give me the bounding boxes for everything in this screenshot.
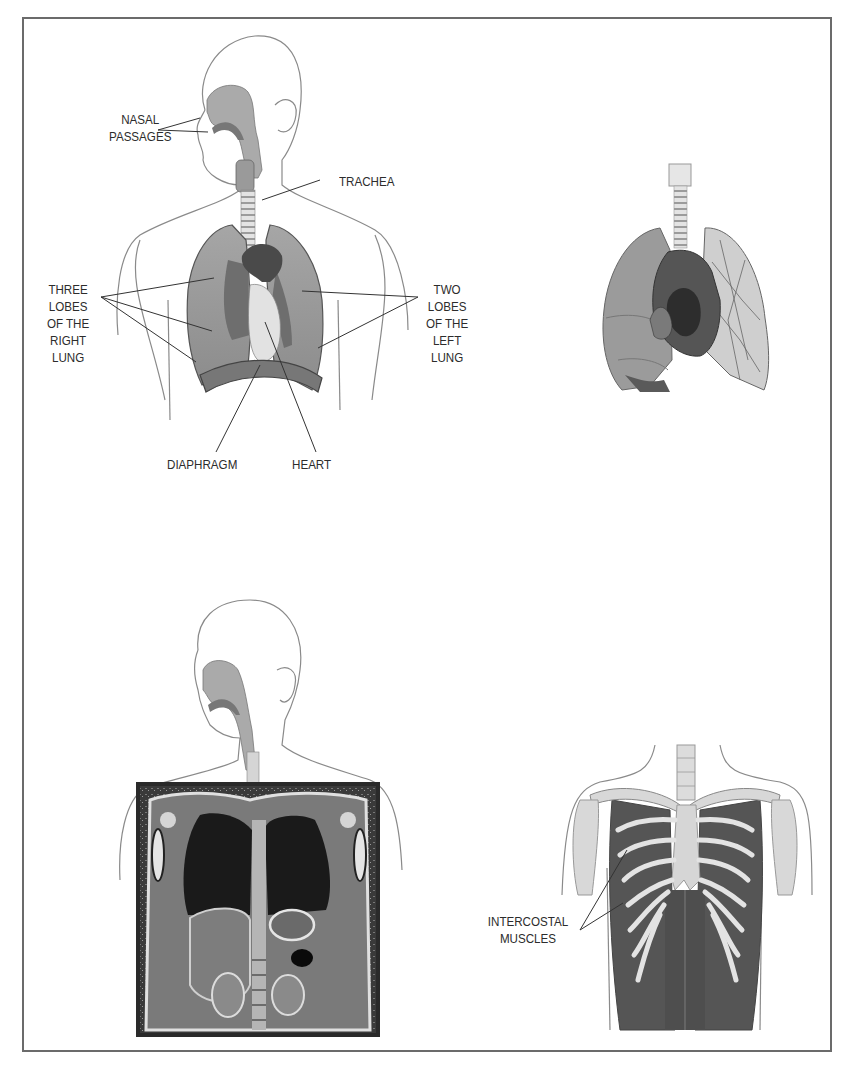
label-nasal-passages: NASAL PASSAGES	[109, 111, 171, 145]
label-trachea: TRACHEA	[339, 173, 394, 190]
panel-intercostal-muscles	[562, 745, 812, 1030]
label-line: LOBES	[423, 298, 471, 315]
mri-scan-image	[136, 782, 380, 1037]
label-line: THREE	[44, 281, 92, 298]
label-two-lobes-left-lung: TWO LOBES OF THE LEFT LUNG	[423, 281, 471, 366]
label-line: LUNG	[423, 349, 471, 366]
label-line: HEART	[292, 456, 331, 473]
anatomy-illustrations	[0, 0, 850, 1066]
label-line: INTERCOSTAL	[485, 913, 571, 930]
label-line: DIAPHRAGM	[167, 456, 237, 473]
label-line: MUSCLES	[485, 930, 571, 947]
label-line: NASAL	[109, 111, 171, 128]
label-line: OF THE	[44, 315, 92, 332]
label-line: PASSAGES	[109, 128, 171, 145]
label-three-lobes-right-lung: THREE LOBES OF THE RIGHT LUNG	[44, 281, 92, 366]
label-heart: HEART	[292, 456, 331, 473]
label-line: TRACHEA	[339, 173, 394, 190]
label-line: LEFT	[423, 332, 471, 349]
label-diaphragm: DIAPHRAGM	[167, 456, 237, 473]
label-line: TWO	[423, 281, 471, 298]
panel-lungs-heart-cutaway	[603, 164, 769, 392]
label-line: LOBES	[44, 298, 92, 315]
label-line: RIGHT	[44, 332, 92, 349]
label-intercostal-muscles: INTERCOSTAL MUSCLES	[485, 913, 571, 947]
label-line: OF THE	[423, 315, 471, 332]
label-line: LUNG	[44, 349, 92, 366]
